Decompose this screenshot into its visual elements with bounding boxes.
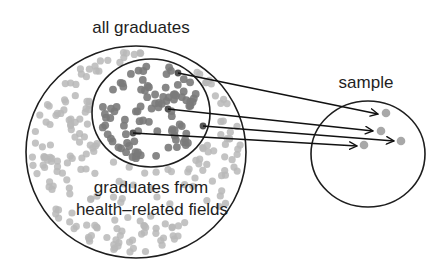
population-dot (126, 248, 133, 255)
population-dot (174, 232, 181, 239)
population-dot (83, 73, 90, 80)
sampling-diagram: all graduates graduates from health–rela… (0, 0, 447, 270)
subgroup-dot (139, 67, 147, 75)
subgroup-dot (165, 144, 173, 152)
subgroup-dot (134, 149, 142, 157)
population-dot (54, 110, 61, 117)
population-dot (68, 209, 75, 216)
population-dot (41, 154, 48, 161)
subgroup-dot (192, 90, 200, 98)
population-dot (103, 234, 110, 241)
population-dot (62, 98, 69, 105)
population-dot (81, 133, 88, 140)
subgroup-label-line2: health–related fields (76, 200, 228, 219)
population-dot (195, 160, 202, 167)
subgroup-dot (139, 76, 147, 84)
subgroup-dot (163, 97, 171, 105)
population-dot (83, 150, 90, 157)
population-dot (113, 225, 120, 232)
population-dot (112, 236, 119, 243)
population-dot (64, 159, 71, 166)
population-dot (221, 167, 228, 174)
population-dot (137, 49, 144, 56)
population-dot (36, 112, 43, 119)
subgroup-dot (137, 86, 145, 94)
population-dot (91, 170, 98, 177)
population-dot (66, 190, 73, 197)
subgroup-dot (121, 116, 129, 124)
population-dot (194, 69, 201, 76)
population-dot (209, 178, 216, 185)
population-dot (104, 57, 111, 64)
population-dot (97, 57, 104, 64)
population-dot (39, 143, 46, 150)
subgroup-dot (165, 63, 173, 71)
subgroup-dot (143, 93, 151, 101)
subgroup-dot (155, 99, 163, 107)
subgroup-dot (107, 135, 115, 143)
population-dot (181, 219, 188, 226)
population-dot (212, 92, 219, 99)
population-dot (46, 178, 53, 185)
population-dot (164, 166, 171, 173)
population-dot (175, 222, 182, 229)
subgroup-dot (178, 93, 186, 101)
population-dot (29, 162, 36, 169)
population-dot (123, 50, 130, 57)
population-dot (63, 176, 70, 183)
sample-dot (382, 109, 391, 118)
population-dot (234, 151, 241, 158)
population-dot (32, 140, 39, 147)
population-dot (110, 246, 117, 253)
sample-dot (360, 141, 369, 150)
population-dot (204, 142, 211, 149)
subgroup-dot (101, 110, 109, 118)
subgroup-dot (119, 79, 127, 87)
population-dot (83, 222, 90, 229)
population-dot (152, 230, 159, 237)
population-dot (157, 237, 164, 244)
population-dot (54, 163, 61, 170)
population-dot (227, 129, 234, 136)
subgroup-dot (176, 121, 184, 129)
subgroup-dot (144, 82, 152, 90)
population-dot (230, 164, 237, 171)
population-dot (83, 98, 90, 105)
population-dot (169, 224, 176, 231)
subgroup-dot (113, 103, 121, 111)
subgroup-dot (182, 141, 190, 149)
population-dot (129, 237, 136, 244)
population-dot (141, 229, 148, 236)
population-dot (32, 128, 39, 135)
population-label: all graduates (92, 18, 189, 37)
population-dot (89, 145, 96, 152)
population-dot (86, 66, 93, 73)
subgroup-dot (127, 70, 135, 78)
population-dot (77, 65, 84, 72)
population-dot (84, 121, 91, 128)
population-dot (203, 161, 210, 168)
population-dot (199, 167, 206, 174)
population-dot (47, 141, 54, 148)
subgroup-dot (122, 130, 130, 138)
population-dot (93, 67, 100, 74)
subgroup-dot (132, 108, 140, 116)
population-dot (153, 169, 160, 176)
subgroup-dot (162, 84, 170, 92)
population-dot (82, 165, 89, 172)
population-dot (93, 224, 100, 231)
population-dot (60, 106, 67, 113)
subgroup-dot (173, 143, 181, 151)
subgroup-dot (169, 125, 177, 133)
population-dot (110, 159, 117, 166)
sample-dot (397, 137, 406, 146)
subgroup-label-line1: graduates from (94, 178, 208, 197)
subgroup-dots (99, 63, 207, 162)
population-dot (218, 187, 225, 194)
population-dot (72, 119, 79, 126)
population-dot (141, 170, 148, 177)
population-dot (62, 80, 69, 87)
subgroup-dot (136, 117, 144, 125)
population-dot (40, 162, 47, 169)
subgroup-dot (145, 118, 153, 126)
